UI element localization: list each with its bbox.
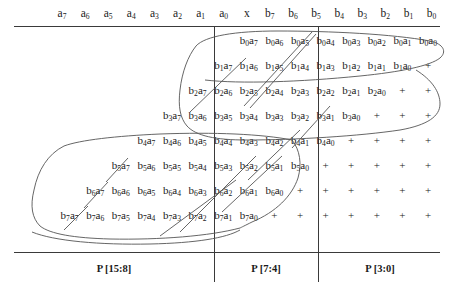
plus-sign: + <box>365 178 389 203</box>
plus-sign: + <box>416 128 440 153</box>
partial-product-row: b4a7b4a6b4a5b4a4b4a3b4a2b4a1b4a0++++ <box>0 128 454 153</box>
plus-sign: + <box>390 203 414 228</box>
plus-sign: + <box>390 78 414 103</box>
plus-sign: + <box>339 153 363 178</box>
partial-product-term: b4a0 <box>311 128 341 156</box>
plus-sign: + <box>365 203 389 228</box>
plus-sign: + <box>339 203 363 228</box>
partial-product-row: b7a7b7a6b7a5b7a4b7a3b7a2b7a1b7a0+++++++ <box>0 203 454 228</box>
plus-sign: + <box>416 178 440 203</box>
product-field-labels: P [15:8]P [7:4]P [3:0] <box>0 258 454 280</box>
partial-product-row: b5a7b5a6b5a5b5a4b5a3b5a2b5a1b5a0+++++ <box>0 153 454 178</box>
plus-sign: + <box>390 178 414 203</box>
plus-sign: + <box>314 203 338 228</box>
partial-product-row: b3a7b3a6b3a5b3a4b3a3b3a2b3a1b3a0+++ <box>0 103 454 128</box>
partial-product-row: b2a7b2a6b2a5b2a4b2a3b2a2b2a1b2a0++ <box>0 78 454 103</box>
partial-product-row: b6a7b6a6b6a5b6a4b6a3b6a2b6a1b6a0++++++ <box>0 178 454 203</box>
plus-sign: + <box>390 153 414 178</box>
plus-sign: + <box>288 203 312 228</box>
plus-sign: + <box>288 178 312 203</box>
plus-sign: + <box>365 103 389 128</box>
partial-product-term: b5a0 <box>285 153 315 181</box>
plus-sign: + <box>262 203 286 228</box>
partial-product-row: b1a7b1a6b1a5b1a4b1a3b1a2b1a1b1a0+ <box>0 53 454 78</box>
plus-sign: + <box>365 153 389 178</box>
top-rule <box>14 26 440 27</box>
product-field-label: P [3:0] <box>330 258 430 280</box>
partial-product-term: b2a0 <box>362 78 392 106</box>
operand-label-b0: b0 <box>418 4 446 26</box>
plus-sign: + <box>416 53 440 78</box>
plus-sign: + <box>416 203 440 228</box>
plus-sign: + <box>314 178 338 203</box>
plus-sign: + <box>390 103 414 128</box>
plus-sign: + <box>339 178 363 203</box>
partial-product-row: b0a7b0a6b0a5b0a4b0a3b0a2b0a1b0a0 <box>0 28 454 53</box>
bottom-rule <box>14 252 440 253</box>
plus-sign: + <box>339 128 363 153</box>
plus-sign: + <box>416 153 440 178</box>
partial-product-term: b3a0 <box>336 103 366 131</box>
plus-sign: + <box>416 103 440 128</box>
plus-sign: + <box>416 78 440 103</box>
partial-product-term: b6a0 <box>259 178 289 206</box>
partial-product-term: b1a0 <box>387 53 417 81</box>
partial-product-term: b0a0 <box>413 28 443 56</box>
plus-sign: + <box>314 153 338 178</box>
partial-product-matrix: b0a7b0a6b0a5b0a4b0a3b0a2b0a1b0a0b1a7b1a6… <box>0 28 454 250</box>
partial-product-term: b7a0 <box>234 203 264 231</box>
operand-header-row: a7a6a5a4a3a2a1a0xb7b6b5b4b3b2b1b0 <box>0 4 454 23</box>
partial-product-diagram: a7a6a5a4a3a2a1a0xb7b6b5b4b3b2b1b0 b0a7b0… <box>0 0 454 298</box>
plus-sign: + <box>390 128 414 153</box>
plus-sign: + <box>365 128 389 153</box>
product-field-label: P [7:4] <box>216 258 316 280</box>
product-field-label: P [15:8] <box>64 258 164 280</box>
